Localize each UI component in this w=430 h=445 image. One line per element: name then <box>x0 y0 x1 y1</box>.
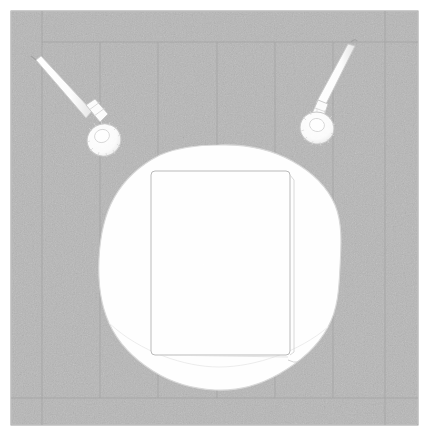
scene-illustration <box>0 0 430 445</box>
scene-canvas: Overhead view of a draped round table wi… <box>0 0 430 445</box>
paper-grain-overlay <box>11 11 418 425</box>
